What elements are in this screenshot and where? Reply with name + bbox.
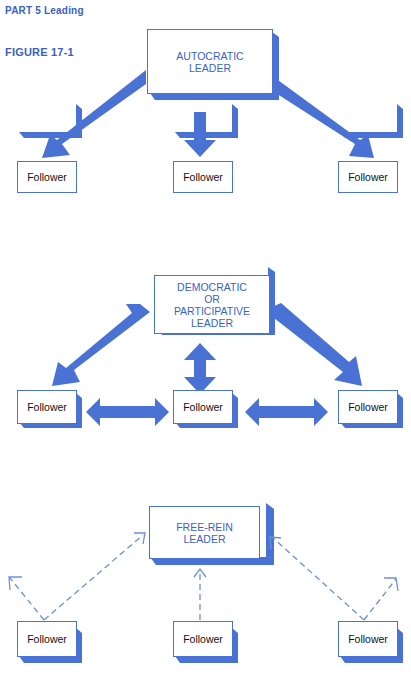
- free-rein-leader-box: FREE-REINLEADER: [149, 506, 260, 559]
- leader-label-line: FREE-REIN: [176, 521, 233, 533]
- leader-label-line: LEADER: [176, 533, 233, 545]
- follower-box: Follower: [173, 621, 233, 657]
- democratic-leader-box: DEMOCRATIC OR PARTICIPATIVE LEADER: [154, 275, 270, 334]
- follower-box: Follower: [173, 161, 233, 193]
- follower-box: Follower: [17, 621, 77, 657]
- follower-box: Follower: [338, 390, 398, 424]
- leader-label-line: PARTICIPATIVE: [174, 305, 250, 317]
- leader-label-line: DEMOCRATIC: [174, 281, 250, 293]
- leader-label-line: AUTOCRATIC: [176, 50, 243, 62]
- autocratic-leader-box: AUTOCRATICLEADER: [147, 29, 273, 94]
- leader-label-line: OR: [174, 293, 250, 305]
- leader-label-line: LEADER: [174, 317, 250, 329]
- follower-box: Follower: [173, 390, 233, 424]
- diagram-graphics: [0, 0, 411, 680]
- follower-box: Follower: [338, 161, 398, 193]
- follower-box: Follower: [338, 621, 398, 657]
- leader-label-line: LEADER: [176, 62, 243, 74]
- follower-box: Follower: [17, 390, 77, 424]
- follower-box: Follower: [17, 161, 77, 193]
